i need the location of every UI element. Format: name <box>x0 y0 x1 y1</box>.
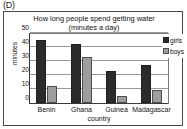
chart-title: How long people spend getting water (min… <box>16 14 172 32</box>
legend-label: girls <box>170 37 182 44</box>
y-axis-title: minutes <box>11 34 18 74</box>
chart-title-line: How long people spend getting water <box>33 14 155 23</box>
legend-label: boys <box>170 48 184 55</box>
plot-area <box>29 33 169 104</box>
bar-group <box>100 34 135 103</box>
x-axis-tick-label: Madagascar <box>128 105 175 114</box>
bar-boys <box>152 90 162 103</box>
gridline <box>30 32 168 33</box>
bar-boys <box>117 96 127 103</box>
chart-subtitle-line: (minutes a day) <box>16 23 172 32</box>
bar-boys <box>82 57 92 103</box>
bar-group <box>30 34 65 103</box>
y-axis-tick-label: 50 <box>15 24 29 31</box>
bar-girls <box>71 44 81 103</box>
bar-girls <box>36 40 46 103</box>
legend-swatch-boys <box>163 48 169 54</box>
chart-figure: (D) How long people spend getting water … <box>0 0 187 129</box>
legend-swatch-girls <box>163 37 169 43</box>
chart-frame: How long people spend getting water (min… <box>3 11 183 126</box>
bar-group <box>65 34 100 103</box>
bar-girls <box>141 65 151 103</box>
chart-legend: girlsboys <box>162 34 187 58</box>
bar-boys <box>47 86 57 103</box>
legend-item-boys: boys <box>163 46 187 56</box>
y-axis-tick-label: 10 <box>15 80 29 87</box>
panel-label: (D) <box>3 0 15 10</box>
bar-girls <box>106 71 116 103</box>
x-axis-title: country <box>29 114 169 123</box>
legend-item-girls: girls <box>163 35 187 45</box>
y-axis-tick-label: 0 <box>15 94 29 101</box>
